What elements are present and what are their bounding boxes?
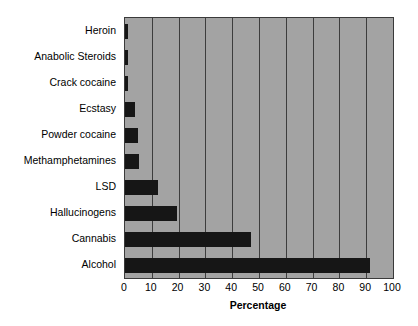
x-tick-label: 80 — [333, 281, 345, 293]
x-tick-label: 40 — [225, 281, 237, 293]
x-tick-label: 50 — [252, 281, 264, 293]
y-tick-label: Ecstasy — [0, 95, 120, 121]
bar — [125, 232, 251, 247]
y-tick-label: Hallucinogens — [0, 199, 120, 225]
bar-row — [125, 252, 393, 278]
bar — [125, 24, 128, 39]
bar-row — [125, 226, 393, 252]
x-tick-label: 100 — [383, 281, 401, 293]
bar — [125, 258, 370, 273]
bar — [125, 76, 128, 91]
y-tick-label: Anabolic Steroids — [0, 43, 120, 69]
bar — [125, 206, 177, 221]
bar — [125, 154, 139, 169]
x-axis-title: Percentage — [124, 299, 392, 311]
bar — [125, 128, 138, 143]
x-tick-label: 90 — [359, 281, 371, 293]
x-axis-tick-labels: 0102030405060708090100 — [124, 281, 392, 297]
bar-row — [125, 18, 393, 44]
bar-chart-figure: HeroinAnabolic SteroidsCrack cocaineEcst… — [0, 0, 418, 326]
x-tick-label: 70 — [306, 281, 318, 293]
bar — [125, 180, 158, 195]
bar-row — [125, 70, 393, 96]
x-tick-label: 30 — [199, 281, 211, 293]
bar — [125, 102, 135, 117]
bar — [125, 50, 128, 65]
x-tick-label: 20 — [172, 281, 184, 293]
bar-row — [125, 96, 393, 122]
y-tick-label: Crack cocaine — [0, 69, 120, 95]
bar-series — [125, 18, 393, 278]
y-tick-label: Alcohol — [0, 251, 120, 277]
bar-row — [125, 174, 393, 200]
y-tick-label: LSD — [0, 173, 120, 199]
bar-row — [125, 122, 393, 148]
x-tick-label: 10 — [145, 281, 157, 293]
plot-area — [124, 17, 394, 279]
x-tick-label: 0 — [121, 281, 127, 293]
y-tick-label: Heroin — [0, 17, 120, 43]
bar-row — [125, 44, 393, 70]
bar-row — [125, 148, 393, 174]
bar-row — [125, 200, 393, 226]
y-tick-label: Methamphetamines — [0, 147, 120, 173]
y-axis-category-labels: HeroinAnabolic SteroidsCrack cocaineEcst… — [0, 17, 120, 277]
x-tick-label: 60 — [279, 281, 291, 293]
y-tick-label: Powder cocaine — [0, 121, 120, 147]
y-tick-label: Cannabis — [0, 225, 120, 251]
